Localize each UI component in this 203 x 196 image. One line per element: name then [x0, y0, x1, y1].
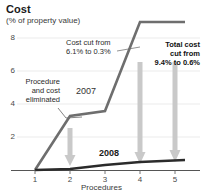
annotation-procedure-line3: eliminated — [8, 95, 60, 104]
series-line-2008 — [35, 160, 185, 170]
annotation-total-line2: cut from — [141, 49, 200, 58]
annotation-total-cost-cut: Total cost cut from 9.4% to 0.6% — [141, 40, 200, 67]
annotation-total-line3: 9.4% to 0.6% — [141, 58, 200, 67]
annotation-cost-cut-line1: Cost cut from — [66, 38, 120, 47]
y-tick-label-8: 8 — [3, 33, 15, 42]
annotation-total-line1: Total cost — [141, 40, 200, 49]
annotation-procedure-line2: and cost — [8, 86, 60, 95]
y-tick-label-2: 2 — [3, 132, 15, 141]
chart-figure: Cost (% of property value) — [0, 0, 203, 196]
annotation-procedure-eliminated: Procedure and cost eliminated — [8, 77, 60, 104]
annotation-procedure-line1: Procedure — [8, 77, 60, 86]
annotation-cost-cut: Cost cut from 6.1% to 0.3% — [66, 38, 120, 56]
arrow-x2 — [65, 128, 76, 166]
series-label-2007: 2007 — [76, 86, 96, 96]
y-tick-label-6: 6 — [3, 66, 15, 75]
arrow-x4 — [135, 62, 146, 164]
series-label-2008: 2008 — [99, 148, 119, 158]
x-axis-title: Procedures — [0, 183, 203, 192]
annotation-cost-cut-line2: 6.1% to 0.3% — [66, 47, 120, 56]
arrow-x5 — [170, 62, 181, 162]
